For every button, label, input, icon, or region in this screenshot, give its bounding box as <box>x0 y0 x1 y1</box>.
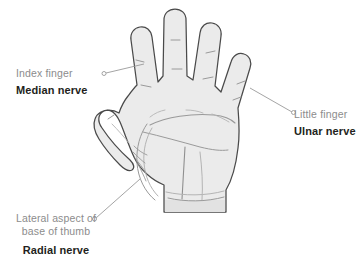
hand-outline-group <box>94 9 251 212</box>
leader-line-ulnar <box>250 88 292 112</box>
leader-marker-median <box>102 72 106 76</box>
callout-median-part-label: Index finger <box>16 67 88 80</box>
callout-ulnar-nerve: Little finger Ulnar nerve <box>294 108 356 138</box>
callout-radial-nerve-label: Radial nerve <box>8 243 104 257</box>
callout-median-nerve-label: Median nerve <box>16 83 88 97</box>
hand-nerve-diagram: Index finger Median nerve Little finger … <box>0 0 362 265</box>
callout-ulnar-part-label: Little finger <box>294 108 356 121</box>
callout-radial-part-label-line1: Lateral aspect of <box>8 212 104 225</box>
callout-radial-nerve: Lateral aspect of base of thumb Radial n… <box>8 212 104 257</box>
wrist-band <box>165 200 225 212</box>
callout-ulnar-nerve-label: Ulnar nerve <box>294 124 356 138</box>
callout-median-nerve: Index finger Median nerve <box>16 67 88 97</box>
callout-radial-part-label-line2: base of thumb <box>8 225 104 238</box>
hand-silhouette <box>94 9 251 212</box>
